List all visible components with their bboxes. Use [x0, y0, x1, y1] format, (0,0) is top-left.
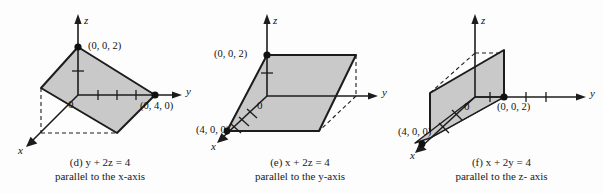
y-axis-label-e: y — [382, 86, 387, 98]
panel-d: z y x 0 (0, 0, 2) (0, 4, 0) (d) y + 2z =… — [0, 0, 200, 194]
caption-d-line2: parallel to the x-axis — [0, 169, 200, 183]
x-axis-label-e: x — [211, 140, 216, 152]
origin-label-e: 0 — [257, 99, 263, 111]
point-label-x-intercept-f: (4, 0, 0) — [398, 126, 431, 137]
z-axis-label-d: z — [84, 14, 88, 26]
point-label-z-intercept-e: (0, 0, 2) — [214, 48, 247, 59]
caption-d-line1: (d) y + 2z = 4 — [0, 155, 200, 169]
caption-e-line1: (e) x + 2z = 4 — [200, 155, 400, 169]
caption-e: (e) x + 2z = 4 parallel to the y-axis — [200, 155, 400, 183]
z-axis-label-f: z — [481, 14, 485, 26]
y-axis-label-f: y — [590, 87, 595, 99]
caption-f-line1: (f) x + 2y = 4 — [400, 155, 603, 169]
point-label-x-intercept-e: (4, 0, 0) — [196, 124, 229, 135]
point-dot-y-d — [151, 91, 158, 98]
point-label-y-intercept-d: (0, 4, 0) — [140, 100, 173, 111]
z-axis-arrow-f — [471, 14, 478, 24]
y-axis-arrow-e — [368, 92, 378, 99]
z-axis-arrow-d — [74, 14, 81, 24]
caption-f: (f) x + 2y = 4 parallel to the z- axis — [400, 155, 603, 183]
figure-three-planes: z y x 0 (0, 0, 2) (0, 4, 0) (d) y + 2z =… — [0, 0, 603, 194]
point-dot-x-f — [419, 141, 426, 148]
origin-label-d: 0 — [68, 98, 74, 110]
z-axis-label-e: z — [273, 14, 277, 26]
point-dot-z-d — [74, 43, 81, 50]
y-axis-arrow-d — [172, 91, 182, 98]
origin-label-f: 0 — [464, 100, 470, 112]
point-label-y-intercept-f: (0, 0, 2) — [497, 101, 530, 112]
point-dot-y-f — [500, 93, 507, 100]
y-axis-label-d: y — [186, 85, 191, 97]
panel-d-diagram — [0, 0, 200, 160]
panel-f: z y x 0 (0, 0, 2) (4, 0, 0) (f) x + 2y =… — [400, 0, 603, 194]
caption-e-line2: parallel to the y-axis — [200, 169, 400, 183]
plane-region-e — [227, 55, 356, 131]
point-dot-z-e — [263, 51, 270, 58]
caption-f-line2: parallel to the z- axis — [400, 169, 603, 183]
panel-e-diagram — [200, 0, 400, 160]
z-axis-arrow-e — [263, 14, 270, 24]
y-axis-arrow-f — [576, 93, 586, 100]
panel-e: z y x 0 (0, 0, 2) (4, 0, 0) (e) x + 2z =… — [200, 0, 400, 194]
caption-d: (d) y + 2z = 4 parallel to the x-axis — [0, 155, 200, 183]
point-label-z-intercept-d: (0, 0, 2) — [88, 40, 121, 51]
